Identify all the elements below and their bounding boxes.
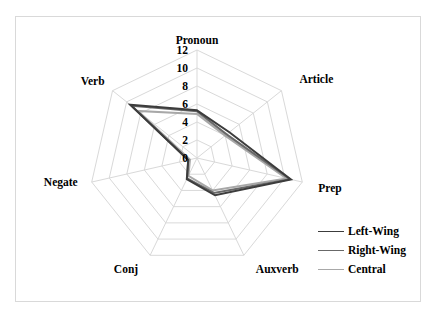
legend-swatch-central bbox=[318, 269, 344, 270]
radial-tick-label: 0 bbox=[182, 152, 188, 164]
axis-label-article: Article bbox=[299, 73, 333, 85]
axis-label-pronoun: Pronoun bbox=[176, 34, 219, 46]
legend-item-right-wing: Right-Wing bbox=[318, 241, 418, 259]
axis-label-negate: Negate bbox=[44, 176, 78, 189]
axis-label-prep: Prep bbox=[318, 182, 341, 195]
grid-spoke bbox=[92, 158, 197, 182]
legend-label: Central bbox=[348, 263, 386, 275]
axis-label-conj: Conj bbox=[114, 263, 138, 276]
grid-spokes bbox=[92, 50, 303, 255]
legend-swatch-right-wing bbox=[318, 250, 344, 251]
axis-label-verb: Verb bbox=[81, 75, 105, 87]
radial-tick-label: 10 bbox=[177, 62, 189, 74]
legend-item-central: Central bbox=[318, 260, 418, 278]
legend-label: Left-Wing bbox=[348, 225, 399, 237]
radial-tick-label: 4 bbox=[182, 116, 188, 128]
radial-tick-label: 8 bbox=[182, 80, 188, 92]
legend: Left-Wing Right-Wing Central bbox=[318, 222, 418, 278]
radial-tick-label: 2 bbox=[182, 134, 188, 146]
legend-label: Right-Wing bbox=[348, 244, 406, 256]
legend-item-left-wing: Left-Wing bbox=[318, 222, 418, 240]
radial-tick-label: 6 bbox=[182, 98, 188, 110]
legend-swatch-left-wing bbox=[318, 231, 344, 232]
axis-label-auxverb: Auxverb bbox=[256, 263, 299, 275]
